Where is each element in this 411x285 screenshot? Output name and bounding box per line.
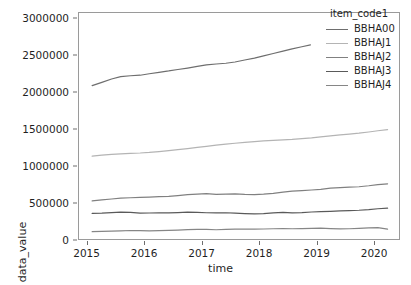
x-tick-label: 2016 — [131, 247, 158, 259]
x-tick-mark — [317, 241, 318, 245]
y-tick-mark — [73, 17, 77, 18]
x-axis-title-wrapper: time — [0, 262, 411, 275]
legend-item-label: BBHAJ4 — [354, 78, 391, 92]
legend-item-label: BBHA00 — [354, 22, 395, 36]
legend-item-bbhaj2[interactable]: BBHAJ2 — [326, 50, 410, 64]
legend-item-bbha00[interactable]: BBHA00 — [326, 22, 410, 36]
y-tick-label: 2500000 — [22, 49, 69, 61]
legend-swatch-icon — [326, 57, 348, 58]
x-axis: 201520162017201820192020 — [0, 241, 411, 263]
legend-item-bbhaj1[interactable]: BBHAJ1 — [326, 36, 410, 50]
legend-item-label: BBHAJ2 — [354, 50, 391, 64]
y-tick-label: 1000000 — [22, 160, 69, 172]
y-tick-mark — [73, 202, 77, 203]
x-tick-label: 2019 — [303, 247, 330, 259]
legend-entries: BBHA00BBHAJ1BBHAJ2BBHAJ3BBHAJ4 — [326, 22, 410, 92]
y-tick-mark — [73, 128, 77, 129]
x-tick-mark — [259, 241, 260, 245]
legend-title: item_code1 — [330, 8, 410, 19]
x-tick-label: 2018 — [246, 247, 273, 259]
legend: item_code1 BBHA00BBHAJ1BBHAJ2BBHAJ3BBHAJ… — [326, 8, 410, 92]
x-tick-label: 2020 — [361, 247, 388, 259]
series-line-bbha00 — [92, 45, 310, 86]
x-axis-title: time — [208, 262, 233, 275]
y-tick-label: 2000000 — [22, 86, 69, 98]
x-tick-mark — [87, 241, 88, 245]
series-line-bbhaj3 — [92, 208, 387, 214]
chart-figure: 0500000100000015000002000000250000030000… — [0, 0, 411, 285]
y-tick-mark — [73, 165, 77, 166]
x-tick-mark — [374, 241, 375, 245]
x-tick-mark — [202, 241, 203, 245]
legend-swatch-icon — [326, 71, 348, 72]
legend-item-label: BBHAJ3 — [354, 64, 391, 78]
legend-swatch-icon — [326, 85, 348, 86]
legend-item-bbhaj3[interactable]: BBHAJ3 — [326, 64, 410, 78]
y-tick-label: 500000 — [29, 197, 69, 209]
y-tick-mark — [73, 54, 77, 55]
legend-swatch-icon — [326, 43, 348, 44]
y-tick-label: 1500000 — [22, 123, 69, 135]
series-line-bbhaj4 — [92, 228, 387, 232]
x-tick-mark — [144, 241, 145, 245]
y-tick-label: 3000000 — [22, 12, 69, 24]
x-tick-label: 2015 — [73, 247, 100, 259]
legend-swatch-icon — [326, 29, 348, 30]
x-tick-label: 2017 — [188, 247, 215, 259]
series-line-bbhaj2 — [92, 184, 387, 201]
legend-item-bbhaj4[interactable]: BBHAJ4 — [326, 78, 410, 92]
legend-item-label: BBHAJ1 — [354, 36, 391, 50]
y-tick-mark — [73, 91, 77, 92]
series-line-bbhaj1 — [92, 130, 387, 156]
